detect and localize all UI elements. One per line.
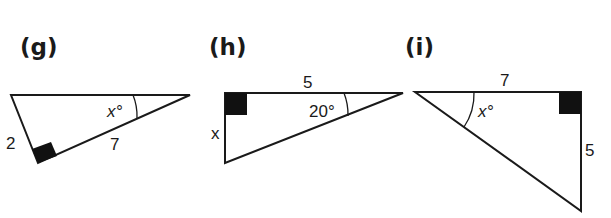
angle-label-i: x° xyxy=(477,102,494,121)
angle-arc-g xyxy=(133,95,137,118)
figure-g: (g) x° 2 7 xyxy=(6,34,190,163)
figure-h: (h) 20° 5 x xyxy=(209,34,403,163)
figure-g-label: (g) xyxy=(20,34,58,60)
side-label-h-top: 5 xyxy=(303,73,312,92)
right-angle-marker-i xyxy=(559,92,581,114)
angle-arc-i xyxy=(464,92,474,127)
figure-i: (i) x° 7 5 xyxy=(405,34,594,211)
angle-label-h: 20° xyxy=(309,102,335,121)
side-label-h-left: x xyxy=(211,124,220,143)
side-label-g-short: 2 xyxy=(6,134,15,153)
triangles-diagram: (g) x° 2 7 (h) 20° 5 x (i) x° 7 5 xyxy=(0,0,611,218)
side-label-g-long: 7 xyxy=(110,135,119,154)
angle-label-g: x° xyxy=(106,102,123,121)
figure-h-label: (h) xyxy=(209,34,246,60)
angle-arc-h xyxy=(344,93,348,116)
right-angle-marker-h xyxy=(225,93,247,115)
side-label-i-right: 5 xyxy=(585,141,594,160)
figure-i-label: (i) xyxy=(405,34,434,60)
triangle-i xyxy=(415,92,581,211)
side-label-i-top: 7 xyxy=(500,71,509,90)
